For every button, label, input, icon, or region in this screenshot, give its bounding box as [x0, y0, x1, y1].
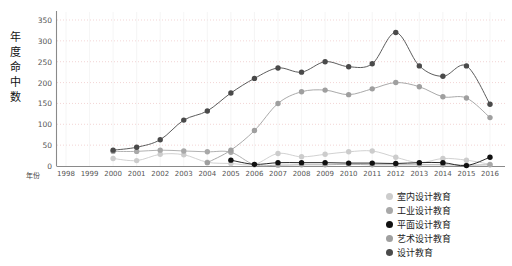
data-point[interactable]	[346, 92, 351, 97]
line-chart: 年度命中数 年份 050100150200250300350 199819992…	[0, 0, 512, 266]
data-point[interactable]	[464, 63, 469, 68]
data-point[interactable]	[275, 65, 280, 70]
chart-legend: 室内设计教育工业设计教育平面设计教育艺术设计教育设计教育	[386, 190, 451, 259]
legend-item-label: 工业设计教育	[397, 204, 451, 217]
data-point[interactable]	[393, 80, 398, 85]
data-point[interactable]	[299, 89, 304, 94]
legend-marker-icon	[386, 193, 393, 200]
legend-item-label: 室内设计教育	[397, 190, 451, 203]
data-point[interactable]	[440, 160, 445, 165]
data-point[interactable]	[346, 160, 351, 165]
data-point[interactable]	[322, 160, 327, 165]
data-point[interactable]	[393, 155, 398, 160]
data-point[interactable]	[440, 74, 445, 79]
data-point[interactable]	[299, 69, 304, 74]
data-point[interactable]	[417, 160, 422, 165]
data-point[interactable]	[487, 155, 492, 160]
data-point[interactable]	[393, 161, 398, 166]
data-point[interactable]	[205, 149, 210, 154]
legend-marker-icon	[386, 235, 393, 242]
data-point[interactable]	[322, 87, 327, 92]
data-point[interactable]	[181, 117, 186, 122]
data-point[interactable]	[205, 108, 210, 113]
data-point[interactable]	[252, 128, 257, 133]
data-point[interactable]	[158, 147, 163, 152]
legend-item-label: 艺术设计教育	[397, 232, 451, 245]
data-point[interactable]	[417, 84, 422, 89]
legend-item[interactable]: 设计教育	[386, 246, 451, 259]
data-point[interactable]	[370, 160, 375, 165]
data-point[interactable]	[370, 86, 375, 91]
data-point[interactable]	[299, 154, 304, 159]
data-point[interactable]	[440, 94, 445, 99]
data-point[interactable]	[370, 148, 375, 153]
legend-marker-icon	[386, 249, 393, 256]
data-point[interactable]	[181, 148, 186, 153]
data-point[interactable]	[487, 115, 492, 120]
data-point[interactable]	[134, 158, 139, 163]
data-point[interactable]	[299, 160, 304, 165]
data-point[interactable]	[228, 157, 233, 162]
data-point[interactable]	[252, 76, 257, 81]
data-point[interactable]	[228, 147, 233, 152]
data-point[interactable]	[252, 162, 257, 167]
data-point[interactable]	[370, 61, 375, 66]
data-point[interactable]	[275, 160, 280, 165]
data-point[interactable]	[393, 30, 398, 35]
legend-item[interactable]: 艺术设计教育	[386, 232, 451, 245]
data-point[interactable]	[346, 149, 351, 154]
data-point[interactable]	[464, 163, 469, 168]
data-point[interactable]	[110, 156, 115, 161]
legend-item-label: 平面设计教育	[397, 218, 451, 231]
data-point[interactable]	[275, 151, 280, 156]
legend-marker-icon	[386, 221, 393, 228]
legend-marker-icon	[386, 207, 393, 214]
data-point[interactable]	[228, 90, 233, 95]
data-point[interactable]	[346, 64, 351, 69]
data-point[interactable]	[487, 162, 492, 167]
legend-item-label: 设计教育	[397, 246, 433, 259]
data-point[interactable]	[464, 95, 469, 100]
data-point[interactable]	[134, 145, 139, 150]
data-point[interactable]	[417, 63, 422, 68]
data-point[interactable]	[322, 152, 327, 157]
data-point[interactable]	[487, 102, 492, 107]
data-point[interactable]	[275, 101, 280, 106]
data-point[interactable]	[158, 137, 163, 142]
legend-item[interactable]: 室内设计教育	[386, 190, 451, 203]
data-point[interactable]	[464, 157, 469, 162]
data-point[interactable]	[110, 147, 115, 152]
data-point[interactable]	[322, 59, 327, 64]
legend-item[interactable]: 平面设计教育	[386, 218, 451, 231]
data-point[interactable]	[205, 160, 210, 165]
legend-item[interactable]: 工业设计教育	[386, 204, 451, 217]
